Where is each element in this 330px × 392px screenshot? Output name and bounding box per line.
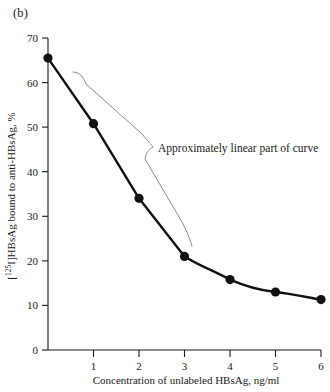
y-tick-label-40: 40 (27, 166, 39, 178)
data-point-markers (43, 54, 325, 305)
x-tick-label-6: 6 (318, 360, 324, 372)
y-tick-label-30: 30 (27, 210, 39, 222)
y-axis-title-superscript: 125 (4, 265, 13, 277)
y-tick-label-20: 20 (27, 255, 39, 267)
data-point-3 (180, 252, 189, 261)
x-axis-tick-labels: 1 2 3 4 5 6 (91, 360, 325, 372)
x-axis-ticks (94, 350, 322, 357)
y-axis-tick-labels: 70 60 50 40 30 20 10 0 (27, 32, 39, 356)
x-tick-label-3: 3 (182, 360, 188, 372)
data-point-1 (89, 119, 98, 128)
y-axis-ticks (42, 38, 48, 350)
data-point-5 (271, 287, 280, 296)
x-axis-title: Concentration of unlabeled HBsAg, ng/ml (93, 374, 280, 386)
y-tick-label-70: 70 (27, 32, 39, 44)
y-axis-title: [125I]HBsAg bound to anti-HBsAg, % (4, 112, 17, 280)
linear-region-brace-icon (73, 72, 192, 246)
x-tick-label-1: 1 (91, 360, 97, 372)
figure-panel-b: (b) 70 60 50 40 30 20 10 0 (0, 0, 330, 392)
x-tick-label-4: 4 (227, 360, 233, 372)
y-tick-label-0: 0 (33, 344, 39, 356)
y-tick-label-50: 50 (27, 121, 39, 133)
svg-text:[125I]HBsAg bound to anti-HBsA: [125I]HBsAg bound to anti-HBsAg, % (4, 112, 17, 280)
chart-canvas: 70 60 50 40 30 20 10 0 1 2 3 4 5 6 (0, 0, 330, 392)
x-tick-label-2: 2 (136, 360, 142, 372)
x-tick-label-5: 5 (273, 360, 279, 372)
y-tick-label-60: 60 (27, 77, 39, 89)
data-point-4 (225, 275, 234, 284)
data-point-0 (43, 54, 52, 63)
y-tick-label-10: 10 (27, 299, 39, 311)
data-curve-line (48, 58, 321, 300)
data-point-6 (316, 295, 325, 304)
y-axis-title-suffix: I]HBsAg bound to anti-HBsAg, % (5, 112, 17, 264)
annotation-linear-part: Approximately linear part of curve (158, 142, 318, 155)
data-point-2 (134, 194, 143, 203)
